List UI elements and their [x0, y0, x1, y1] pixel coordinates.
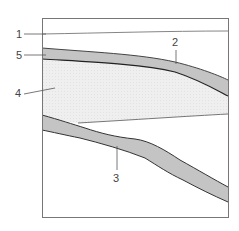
- label-5: 5: [16, 50, 22, 61]
- cross-section-diagram: [0, 0, 239, 231]
- label-2: 2: [172, 37, 178, 48]
- label-1: 1: [16, 29, 22, 40]
- label-4: 4: [15, 88, 21, 99]
- boundary-line-1: [42, 31, 228, 34]
- label-3: 3: [113, 173, 119, 184]
